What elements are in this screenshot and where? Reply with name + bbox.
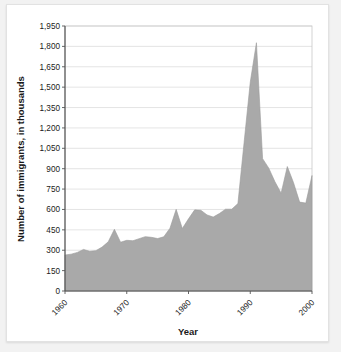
page-root: 1,9501,8001,6501,5001,3501,2001,05090075… [0,0,341,352]
y-tick-label: 150 [46,267,60,276]
y-tick-label: 1,650 [40,63,61,72]
x-tick-labels-group: 19601970198019902000 [50,291,317,317]
chart-card: 1,9501,8001,6501,5001,3501,2001,05090075… [6,4,329,342]
x-tick-label: 1990 [235,298,255,318]
y-tick-label: 0 [55,287,60,296]
x-tick-label: 1960 [50,298,70,318]
y-tick-label: 1,800 [40,42,61,51]
immigrants-area-series [65,43,312,291]
y-tick-label: 450 [46,226,60,235]
x-axis-title: Year [178,326,198,337]
y-tick-label: 1,350 [40,104,61,113]
y-tick-label: 750 [46,185,60,194]
immigration-area-chart: 1,9501,8001,6501,5001,3501,2001,05090075… [7,5,330,343]
x-tick-label: 1970 [112,298,132,318]
y-tick-label: 600 [46,205,60,214]
y-tick-label: 900 [46,165,60,174]
x-tick-label: 2000 [297,298,317,318]
chart-svg: 1,9501,8001,6501,5001,3501,2001,05090075… [7,5,330,343]
y-tick-label: 1,200 [40,124,61,133]
series-area-group [65,43,312,291]
y-axis-title: Number of immigrants, in thousands [15,76,26,242]
y-tick-label: 1,050 [40,144,61,153]
y-tick-label: 1,500 [40,83,61,92]
y-tick-labels-group: 1,9501,8001,6501,5001,3501,2001,05090075… [40,22,66,296]
x-tick-label: 1980 [174,298,194,318]
y-tick-label: 1,950 [40,22,61,31]
y-tick-label: 300 [46,246,60,255]
